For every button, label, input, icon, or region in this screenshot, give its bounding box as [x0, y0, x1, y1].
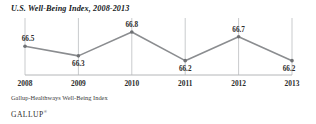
- x-axis-tick-label: 2009: [71, 79, 86, 88]
- chart-title: U.S. Well-Being Index, 2008-2013: [11, 4, 129, 13]
- registered-trademark-icon: ®: [44, 109, 47, 114]
- data-point-marker: [237, 35, 241, 39]
- plot-area: 66.566.366.866.266.766.2: [0, 18, 316, 78]
- x-axis-tick-label: 2012: [231, 79, 246, 88]
- x-axis-tick-label: 2011: [178, 79, 192, 88]
- data-point-value-label: 66.3: [72, 60, 85, 68]
- x-axis-tick-label: 2010: [124, 79, 139, 88]
- well-being-index-chart: U.S. Well-Being Index, 2008-2013 66.566.…: [0, 0, 316, 124]
- data-point-marker: [183, 59, 187, 63]
- data-point-marker: [130, 30, 134, 34]
- data-point-value-label: 66.7: [232, 26, 245, 34]
- gallup-logo-text: GALLUP: [11, 110, 44, 119]
- data-point-value-label: 66.2: [179, 65, 192, 73]
- x-axis-tick-labels: 200820092010201120122013: [0, 79, 316, 91]
- data-point-marker: [290, 59, 294, 63]
- data-point-value-label: 66.2: [283, 65, 296, 73]
- series-line-well-being-index: [25, 32, 292, 61]
- data-point-value-label: 66.8: [126, 21, 139, 29]
- data-point-marker: [23, 45, 27, 49]
- line-chart-svg: [0, 18, 316, 78]
- data-point-marker: [77, 54, 81, 58]
- x-axis-tick-label: 2013: [285, 79, 300, 88]
- x-axis-tick-label: 2008: [18, 79, 33, 88]
- gallup-logo: GALLUP®: [11, 109, 47, 119]
- source-note: Gallup-Healthways Well-Being Index: [11, 94, 108, 101]
- data-point-value-label: 66.5: [22, 35, 35, 43]
